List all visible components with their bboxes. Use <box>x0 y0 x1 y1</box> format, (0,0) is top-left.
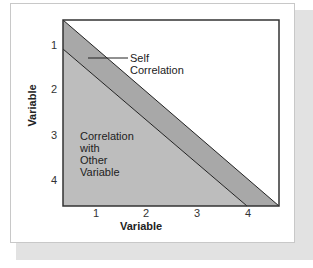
y-tick-3: 3 <box>51 130 57 141</box>
self-annotation-line1: Self <box>130 52 184 64</box>
y-tick-2: 2 <box>51 84 57 95</box>
x-tick-4: 4 <box>245 208 251 219</box>
other-correlation-annotation: Correlation with Other Variable <box>80 130 134 178</box>
x-tick-1: 1 <box>93 208 99 219</box>
self-correlation-annotation: Self Correlation <box>130 52 184 76</box>
other-annotation-line2: with <box>80 142 134 154</box>
y-tick-1: 1 <box>51 40 57 51</box>
other-annotation-line4: Variable <box>80 166 134 178</box>
x-tick-2: 2 <box>143 208 149 219</box>
x-axis-label: Variable <box>120 221 162 232</box>
y-tick-4: 4 <box>51 175 57 186</box>
other-annotation-line1: Correlation <box>80 130 134 142</box>
y-axis-label: Variable <box>27 81 38 131</box>
self-annotation-line2: Correlation <box>130 64 184 76</box>
x-tick-3: 3 <box>194 208 200 219</box>
other-annotation-line3: Other <box>80 154 134 166</box>
